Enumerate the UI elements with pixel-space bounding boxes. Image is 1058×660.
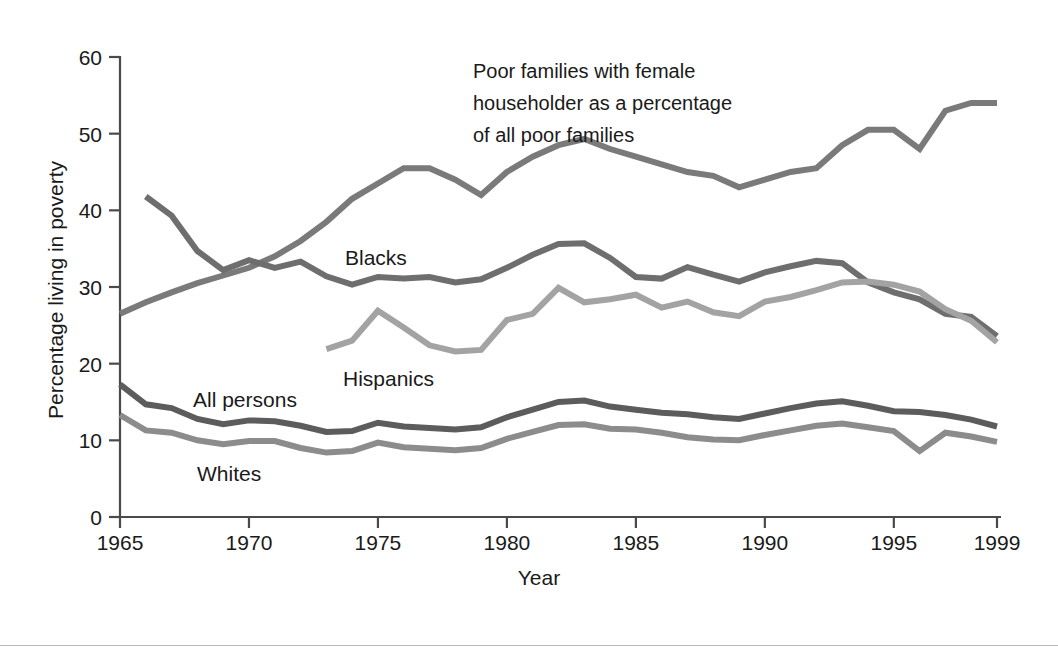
x-tick-label: 1980	[484, 531, 531, 554]
y-tick-label: 40	[79, 199, 102, 222]
y-tick-label: 20	[79, 353, 102, 376]
y-tick-label: 30	[79, 276, 102, 299]
annotation-line-3: of all poor families	[473, 124, 634, 146]
y-axis-title: Percentage living in poverty	[44, 161, 67, 419]
y-tick-label: 60	[79, 46, 102, 69]
series-label-hispanics: Hispanics	[343, 367, 434, 390]
chart-canvas: 0102030405060 19651970197519801985199019…	[0, 0, 1058, 660]
y-tick-label: 10	[79, 429, 102, 452]
x-tick-label: 1995	[870, 531, 917, 554]
x-tick-label: 1965	[97, 531, 144, 554]
series-label-whites: Whites	[197, 462, 261, 485]
annotation-line-1: Poor families with female	[473, 60, 695, 82]
x-tick-label: 1970	[226, 531, 273, 554]
footer-divider	[0, 645, 1058, 646]
series-label-all-persons: All persons	[193, 388, 297, 411]
y-tick-label: 50	[79, 123, 102, 146]
x-axis-title: Year	[518, 566, 560, 589]
poverty-line-chart: 0102030405060 19651970197519801985199019…	[0, 0, 1058, 660]
annotation-line-2: householder as a percentage	[473, 92, 732, 114]
x-tick-label: 1975	[355, 531, 402, 554]
series-label-blacks: Blacks	[345, 246, 407, 269]
x-tick-label: 1999	[974, 531, 1021, 554]
y-tick-label: 0	[90, 506, 102, 529]
x-tick-label: 1985	[613, 531, 660, 554]
x-tick-label: 1990	[741, 531, 788, 554]
